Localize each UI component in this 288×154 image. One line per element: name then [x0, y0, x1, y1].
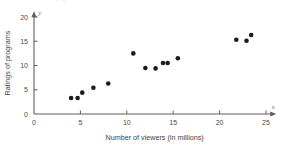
- x-axis-tick-label: 0: [32, 119, 36, 126]
- data-point: [165, 61, 170, 66]
- x-axis-title: Number of viewers (in millions): [106, 133, 204, 142]
- y-axis-tick-label: 5: [24, 86, 28, 93]
- data-point: [234, 38, 239, 43]
- data-point: [143, 66, 148, 71]
- y-axis-tick-label: 15: [20, 38, 28, 45]
- data-point: [131, 51, 136, 56]
- data-point: [75, 96, 80, 101]
- data-point-series: [69, 33, 254, 101]
- y-axis-tick-label: 0: [24, 111, 28, 118]
- data-point: [69, 96, 74, 101]
- x-axis-tick-label: 5: [78, 119, 82, 126]
- scatter-plot-figure: y g 051015202505101520xyNumber of viewer…: [0, 0, 288, 154]
- x-axis-variable-label: x: [271, 103, 275, 110]
- data-point: [161, 61, 166, 66]
- x-axis-tick-label: 25: [262, 119, 270, 126]
- data-point: [80, 90, 85, 95]
- y-axis-variable-label: y: [38, 9, 42, 16]
- plot-area: 051015202505101520xyNumber of viewers (i…: [0, 0, 288, 154]
- data-point: [91, 86, 96, 91]
- scatter-plot-svg: 051015202505101520xyNumber of viewers (i…: [0, 0, 288, 154]
- y-axis-title: Ratings of programs: [3, 30, 12, 95]
- y-axis-tick-label: 10: [20, 62, 28, 69]
- y-axis-arrow-icon: [31, 11, 36, 17]
- y-axis-tick-label: 20: [20, 14, 28, 21]
- data-point: [153, 66, 158, 71]
- data-point: [106, 81, 111, 86]
- x-axis-arrow-icon: [270, 111, 276, 116]
- data-point: [176, 56, 181, 61]
- data-point: [249, 33, 254, 38]
- x-axis-tick-label: 10: [123, 119, 131, 126]
- x-axis-tick-label: 20: [216, 119, 224, 126]
- x-axis-tick-label: 15: [169, 119, 177, 126]
- data-point: [244, 38, 249, 43]
